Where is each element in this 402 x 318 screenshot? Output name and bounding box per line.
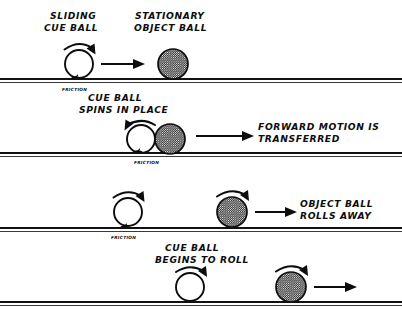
label-stationary-line1: STATIONARY [135,10,205,21]
label-friction-2: FRICTION [134,160,159,165]
cue-ball-2 [127,125,155,153]
label-cue-begins-line1: CUE BALL [165,242,219,253]
label-sliding-line2: CUE BALL [44,22,98,33]
label-object-rolls-line1: OBJECT BALL [300,198,373,209]
label-forward-motion-line2: TRANSFERRED [258,133,340,144]
panel-3: OBJECT BALL ROLLS AWAY FRICTION [0,190,402,240]
object-ball-3 [217,197,247,227]
motion-arrow-3 [255,207,297,217]
motion-arrow-4 [314,282,357,292]
cue-ball-4 [176,273,204,301]
panel-4: CUE BALL BEGINS TO ROLL [0,242,402,306]
panel-2: CUE BALL SPINS IN PLACE FORWARD MOTION I… [0,92,402,165]
label-cue-spins-line1: CUE BALL [88,92,142,103]
rail-2 [0,153,402,157]
label-object-rolls-line2: ROLLS AWAY [300,210,372,221]
label-friction-1: FRICTION [62,87,87,92]
rail-1 [0,79,402,83]
motion-arrow-2 [196,131,254,141]
label-cue-spins-line2: SPINS IN PLACE [79,104,169,115]
label-forward-motion-line1: FORWARD MOTION IS [258,121,380,132]
rail-3 [0,228,402,232]
diagram-canvas: SLIDING CUE BALL STATIONARY OBJECT BALL … [0,0,402,318]
label-cue-begins-line2: BEGINS TO ROLL [155,254,249,265]
cue-ball-3 [114,198,142,226]
pool-physics-diagram: SLIDING CUE BALL STATIONARY OBJECT BALL … [0,0,402,318]
object-ball-1 [158,49,188,79]
label-sliding-line1: SLIDING [50,10,96,21]
motion-arrow-1 [101,59,145,69]
panel-1: SLIDING CUE BALL STATIONARY OBJECT BALL … [0,10,402,92]
object-ball-2 [155,124,185,154]
rail-4 [0,302,402,306]
label-stationary-line2: OBJECT BALL [134,22,207,33]
label-friction-3: FRICTION [111,235,136,240]
object-ball-4 [276,272,306,302]
cue-ball-1 [65,50,93,78]
